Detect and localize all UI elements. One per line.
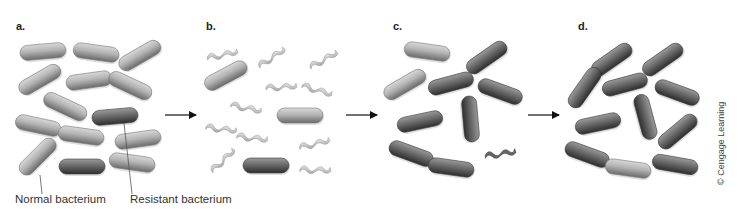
lysed-bacterium <box>205 122 237 135</box>
lysed-bacterium <box>299 137 331 150</box>
resistant-bacterium <box>464 38 512 79</box>
panel-label-d: d. <box>578 20 588 32</box>
resistant-bacterium <box>562 140 612 172</box>
lysed-bacterium <box>301 81 333 99</box>
normal-bacterium <box>604 158 653 181</box>
lysed-resistant-bacterium <box>485 149 517 160</box>
normal-bacterium <box>202 58 251 95</box>
bacteria-layer <box>14 37 703 181</box>
resistant-bacterium <box>91 107 139 128</box>
resistant-bacterium <box>427 70 477 99</box>
lysed-bacterium <box>266 83 297 91</box>
normal-bacterium <box>65 70 114 93</box>
resistant-bacterium <box>655 110 702 153</box>
bacteria-resistance-diagram: a. b. c. d. Normal bacterium Resistant b… <box>0 0 738 209</box>
normal-bacterium <box>14 113 64 139</box>
resistant-bacterium <box>651 153 700 178</box>
lysed-bacterium <box>257 46 288 68</box>
lysed-bacterium <box>236 131 268 144</box>
lysed-bacterium <box>300 165 332 176</box>
normal-bacterium <box>277 108 324 125</box>
normal-bacterium <box>72 42 121 65</box>
normal-bacterium <box>105 69 155 104</box>
normal-bacterium <box>114 129 163 152</box>
resistant-bacterium-label: Resistant bacterium <box>130 193 232 205</box>
normal-bacterium <box>403 41 452 64</box>
copyright-credit: © Cengage Learning <box>716 102 726 185</box>
resistant-bacterium <box>475 77 525 109</box>
resistant-bacterium <box>640 40 688 81</box>
normal-bacterium <box>116 37 165 75</box>
lysed-bacterium <box>209 147 238 173</box>
resistant-bacterium <box>459 95 480 143</box>
normal-bacterium-label: Normal bacterium <box>15 193 106 205</box>
normal-leader-line <box>40 175 42 194</box>
normal-bacterium <box>19 42 67 63</box>
normal-bacterium <box>57 125 106 148</box>
panel-label-a: a. <box>16 20 25 32</box>
panel-label-c: c. <box>393 20 402 32</box>
resistant-bacterium <box>630 93 659 143</box>
lysed-bacterium <box>308 50 339 70</box>
resistant-bacterium <box>396 109 446 135</box>
lysed-bacterium <box>230 100 262 116</box>
resistant-bacterium <box>427 157 476 180</box>
resistant-bacterium <box>652 78 702 110</box>
normal-bacterium <box>381 66 430 104</box>
normal-bacterium <box>108 152 157 175</box>
resistant-bacterium <box>243 158 290 175</box>
resistant-bacterium <box>59 159 106 176</box>
lysed-bacterium <box>207 49 239 61</box>
panel-label-b: b. <box>206 20 216 32</box>
resistant-bacterium <box>574 111 624 137</box>
resistant-bacterium <box>565 64 606 112</box>
diagram-artwork <box>0 0 738 209</box>
normal-bacterium <box>16 134 61 179</box>
normal-bacterium <box>16 61 65 99</box>
